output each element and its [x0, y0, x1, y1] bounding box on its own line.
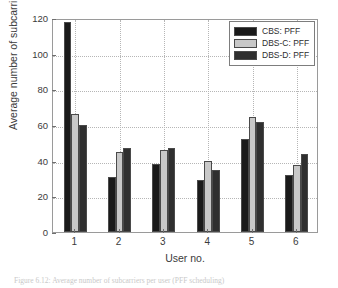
bar	[197, 180, 205, 232]
bar	[168, 148, 176, 232]
legend-swatch-icon	[234, 27, 257, 36]
bar	[64, 22, 72, 232]
bar	[123, 148, 131, 232]
y-tick-mark	[52, 233, 56, 234]
bar	[108, 177, 116, 232]
bar	[301, 154, 309, 232]
legend-item[interactable]: DBS-D: PFF	[234, 50, 310, 61]
figure-caption: Figure 6.12: Average number of subcarrie…	[14, 276, 334, 285]
y-tick-mark	[52, 19, 56, 20]
y-tick-label: 0	[8, 228, 48, 238]
legend-label: CBS: PFF	[262, 27, 300, 36]
y-tick-mark	[52, 162, 56, 163]
bar	[160, 150, 168, 232]
x-tick-mark	[296, 229, 297, 233]
legend-item[interactable]: DBS-C: PFF	[234, 38, 310, 49]
y-tick-label: 40	[8, 157, 48, 167]
figure-container: 020406080100120 123456 Average number of…	[0, 0, 338, 288]
bar	[204, 161, 212, 232]
x-tick-mark	[207, 229, 208, 233]
bar	[116, 152, 124, 232]
y-tick-mark	[52, 126, 56, 127]
gridline	[53, 198, 317, 199]
y-tick-mark	[52, 55, 56, 56]
legend-swatch-icon	[234, 39, 257, 48]
y-tick-mark	[52, 197, 56, 198]
x-tick-mark	[163, 229, 164, 233]
y-tick-label: 20	[8, 192, 48, 202]
x-tick-label: 2	[104, 237, 134, 247]
bar	[71, 114, 79, 232]
x-tick-label: 3	[148, 237, 178, 247]
bar	[152, 164, 160, 232]
x-tick-label: 1	[59, 237, 89, 247]
bar	[79, 125, 87, 232]
x-tick-mark	[252, 229, 253, 233]
y-tick-mark	[52, 90, 56, 91]
bar	[256, 122, 264, 232]
legend-swatch-icon	[234, 51, 257, 60]
gridline	[53, 163, 317, 164]
x-axis-title: User no.	[52, 252, 318, 264]
legend-item[interactable]: CBS: PFF	[234, 26, 310, 37]
x-tick-label: 5	[237, 237, 267, 247]
x-tick-label: 6	[281, 237, 311, 247]
bar	[241, 139, 249, 232]
gridline	[53, 91, 317, 92]
bar	[249, 117, 257, 232]
x-tick-mark	[74, 229, 75, 233]
legend[interactable]: CBS: PFFDBS-C: PFFDBS-D: PFF	[229, 21, 315, 66]
bar	[212, 170, 220, 232]
y-axis-title: Average number of subcarriers	[7, 0, 19, 133]
bar	[285, 175, 293, 232]
gridline	[53, 127, 317, 128]
bar	[293, 165, 301, 232]
x-tick-mark	[119, 229, 120, 233]
x-tick-label: 4	[192, 237, 222, 247]
legend-label: DBS-C: PFF	[262, 39, 309, 48]
legend-label: DBS-D: PFF	[262, 51, 309, 60]
